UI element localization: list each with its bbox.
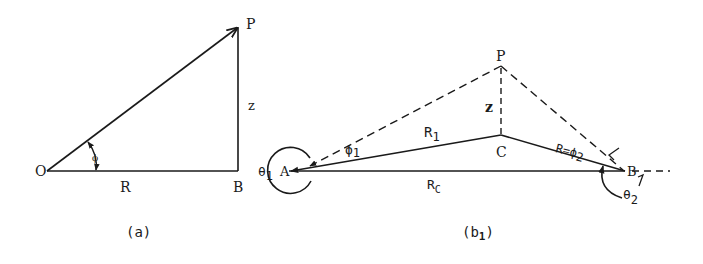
point-P-label: P: [496, 48, 505, 64]
phi1-label: ϕ1: [345, 142, 360, 160]
Rc-label: RC: [427, 177, 441, 195]
point-A-label: A: [279, 164, 290, 179]
diagram-canvas: O B P R z ϕ (a) P C A B z R1: [0, 0, 703, 264]
diagram-a: O B P R z ϕ (a): [35, 16, 255, 240]
caption-b1: (b1): [462, 224, 494, 243]
R1-label: R1: [424, 124, 440, 144]
diagram-b1: P C A B z R1 RC ϕ1 R=ϕ2 θ1 θ2 (b1): [258, 48, 670, 243]
caption-a: (a): [126, 224, 151, 240]
R2-phi2-label: R=ϕ2: [554, 141, 586, 164]
point-B-label: B: [627, 164, 637, 179]
z-label: z: [485, 99, 493, 115]
theta1-label: θ1: [258, 164, 273, 183]
line-AC: [291, 135, 501, 171]
theta2-tick: [638, 175, 643, 186]
angle-phi-label: ϕ: [92, 153, 98, 163]
point-B-label: B: [233, 179, 243, 195]
theta2-label: θ2: [623, 187, 638, 207]
point-O-label: O: [35, 163, 46, 179]
vector-line-OP: [47, 28, 237, 171]
point-C-label: C: [496, 144, 507, 160]
base-R-label: R: [120, 179, 131, 195]
height-z-label: z: [248, 98, 255, 113]
point-P-label: P: [246, 16, 255, 32]
angle-phi2-arrow: [609, 148, 619, 160]
